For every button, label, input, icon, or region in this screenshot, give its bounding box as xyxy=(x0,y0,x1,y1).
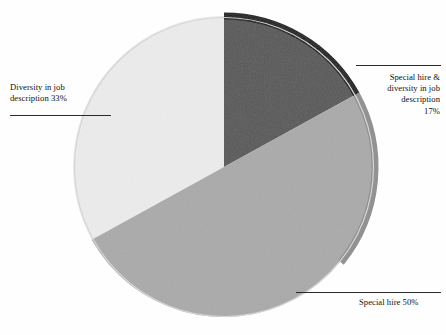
pie-label-special-hire: Special hire 50% xyxy=(359,297,443,308)
pie-label-diversity: Diversity in job description 33% xyxy=(10,82,114,104)
pie-chart-figure: Diversity in job description 33% Special… xyxy=(0,0,446,335)
pie-leader-line-diversity xyxy=(10,115,111,116)
pie-label-special-hire-and-diversity: Special hire & diversity in job descript… xyxy=(356,72,440,117)
pie-svg xyxy=(0,0,446,335)
pie-graphic xyxy=(0,0,446,335)
pie-leader-line-special-hire-and-diversity xyxy=(356,65,441,66)
pie-leader-line-special-hire xyxy=(296,292,441,293)
